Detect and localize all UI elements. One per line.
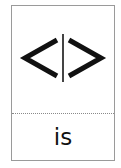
symbol-area [12,6,114,113]
flash-card: is [11,5,115,161]
vertical-bar-icon [62,34,64,82]
card-word: is [12,117,114,157]
dotted-divider [12,113,114,114]
